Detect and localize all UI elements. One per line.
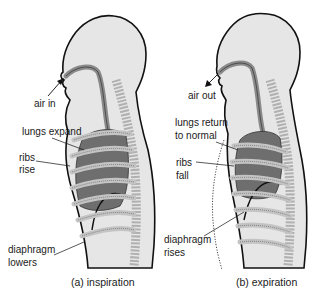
caption-inspiration: (a) inspiration xyxy=(71,276,135,288)
label-air-out: air out xyxy=(188,90,216,101)
expiration-figure xyxy=(196,14,307,270)
label-ribs-a: ribs xyxy=(19,152,35,163)
label-lowers: lowers xyxy=(8,257,37,268)
label-air-in: air in xyxy=(34,98,56,109)
label-fall: fall xyxy=(176,170,189,181)
label-lungs-expand: lungs expand xyxy=(22,126,82,137)
label-to-normal: to normal xyxy=(175,130,217,141)
label-lungs-return: lungs return xyxy=(175,117,228,128)
label-rises: rises xyxy=(164,247,185,258)
expanded-outline-b xyxy=(212,140,224,270)
label-diaphragm-a: diaphragm xyxy=(8,244,55,255)
inspiration-figure xyxy=(36,16,155,268)
label-diaphragm-b: diaphragm xyxy=(164,234,211,245)
label-rise: rise xyxy=(19,164,35,175)
label-ribs-b: ribs xyxy=(176,157,192,168)
caption-expiration: (b) expiration xyxy=(236,276,297,288)
